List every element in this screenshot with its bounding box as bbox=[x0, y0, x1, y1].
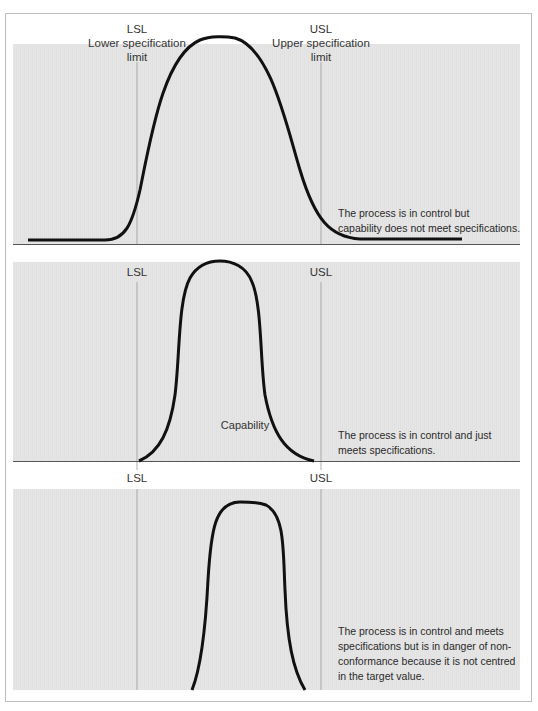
curves-overlay bbox=[0, 0, 538, 711]
panel-3-note-line-4: in the target value. bbox=[338, 669, 515, 684]
panel-1-lsl-description-line1: Lower specification bbox=[87, 36, 187, 50]
panel-3-note: The process is in control and meets spec… bbox=[338, 624, 515, 684]
panel-2-lsl-label: LSL bbox=[107, 265, 167, 279]
panel-1-note-line-1: The process is in control but bbox=[338, 206, 520, 221]
panel-1-usl-description-line1: Upper specification bbox=[271, 36, 371, 50]
panel-2-capability-label: Capability bbox=[215, 418, 275, 432]
panel-3-note-line-3: conformance because it is not centred bbox=[338, 654, 515, 669]
panel-3-lsl-label: LSL bbox=[107, 471, 167, 485]
panel-2-note-line-2: meets specifications. bbox=[338, 443, 492, 458]
panel-3-usl-label: USL bbox=[291, 471, 351, 485]
panel-2-usl-label: USL bbox=[291, 265, 351, 279]
panel-1-usl-description-line2: limit bbox=[291, 50, 351, 64]
panel-1-note-line-2: capability does not meet specifications. bbox=[338, 221, 520, 236]
panel-3-note-line-1: The process is in control and meets bbox=[338, 624, 515, 639]
panel-2-note: The process is in control and just meets… bbox=[338, 428, 492, 458]
panel-3-capability-curve bbox=[192, 502, 305, 690]
panel-1-lsl-description-line2: limit bbox=[107, 50, 167, 64]
panel-1-usl-label: USL bbox=[291, 22, 351, 36]
panel-2-note-line-1: The process is in control and just bbox=[338, 428, 492, 443]
panel-1-lsl-label: LSL bbox=[107, 22, 167, 36]
panel-3-note-line-2: specifications but is in danger of non- bbox=[338, 639, 515, 654]
panel-1-note: The process is in control but capability… bbox=[338, 206, 520, 236]
